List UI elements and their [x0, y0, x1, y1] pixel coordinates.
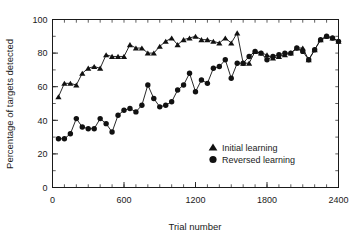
data-point-circle	[324, 34, 329, 39]
data-point-circle	[175, 87, 180, 92]
data-point-circle	[318, 37, 323, 42]
legend-label-reversed-learning: Reversed learning	[222, 155, 295, 165]
data-point-circle	[187, 71, 192, 76]
data-point-circle	[80, 124, 85, 129]
data-point-circle	[103, 121, 108, 126]
data-point-circle	[151, 96, 156, 101]
data-point-circle	[312, 47, 317, 52]
data-point-circle	[199, 77, 204, 82]
y-tick-label: 80	[37, 48, 47, 58]
data-point-circle	[336, 39, 341, 44]
y-tick-label: 60	[37, 82, 47, 92]
data-point-circle	[97, 116, 102, 121]
data-point-circle	[109, 129, 114, 134]
data-point-circle	[92, 126, 97, 131]
data-point-circle	[294, 45, 299, 50]
data-point-circle	[276, 52, 281, 57]
legend-label-initial-learning: Initial learning	[222, 143, 278, 153]
data-point-circle	[240, 60, 245, 65]
data-point-circle	[258, 50, 263, 55]
data-point-circle	[133, 109, 138, 114]
data-point-circle	[139, 102, 144, 107]
data-point-circle	[86, 126, 91, 131]
circle-marker-icon	[209, 156, 216, 163]
data-point-circle	[270, 54, 275, 59]
y-axis-title: Percentage of targets detected	[4, 39, 15, 169]
data-point-circle	[211, 66, 216, 71]
y-tick-label: 100	[32, 15, 47, 25]
data-point-circle	[223, 57, 228, 62]
x-tick-label: 2400	[328, 195, 348, 205]
x-axis-title: Trial number	[169, 221, 222, 232]
data-point-circle	[217, 64, 222, 69]
data-point-circle	[193, 89, 198, 94]
x-tick-label: 1800	[257, 195, 277, 205]
data-point-circle	[229, 76, 234, 81]
data-point-circle	[169, 99, 174, 104]
data-point-circle	[163, 102, 168, 107]
data-point-circle	[145, 82, 150, 87]
data-point-circle	[62, 136, 67, 141]
data-point-circle	[300, 49, 305, 54]
data-point-circle	[252, 49, 257, 54]
chart-figure: 0600120018002400 020406080100 Trial numb…	[0, 0, 354, 237]
data-point-circle	[205, 81, 210, 86]
data-point-circle	[288, 50, 293, 55]
x-tick-label: 0	[50, 195, 55, 205]
data-point-circle	[157, 104, 162, 109]
y-tick-label: 0	[42, 183, 47, 193]
data-point-circle	[127, 106, 132, 111]
data-point-circle	[74, 116, 79, 121]
data-point-circle	[68, 131, 73, 136]
data-point-circle	[115, 113, 120, 118]
y-tick-label: 40	[37, 116, 47, 126]
data-point-circle	[121, 108, 126, 113]
percentage-of-targets-detected-chart: 0600120018002400 020406080100 Trial numb…	[0, 0, 354, 237]
data-point-circle	[181, 82, 186, 87]
x-tick-label: 600	[116, 195, 131, 205]
data-point-circle	[306, 57, 311, 62]
data-point-circle	[235, 60, 240, 65]
data-point-circle	[246, 54, 251, 59]
data-point-circle	[330, 35, 335, 40]
data-point-circle	[282, 50, 287, 55]
data-point-circle	[56, 136, 61, 141]
y-tick-label: 20	[37, 149, 47, 159]
x-tick-label: 1200	[185, 195, 205, 205]
data-point-circle	[264, 57, 269, 62]
